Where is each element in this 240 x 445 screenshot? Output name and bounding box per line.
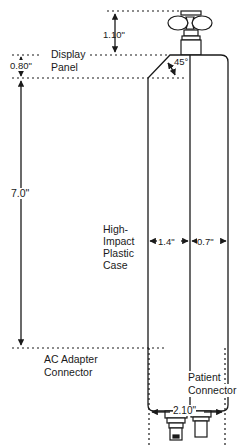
device-body [148, 55, 228, 411]
display-panel-label-line2: Panel [51, 61, 78, 74]
front-width-dimension: 1.4" [158, 236, 175, 247]
bevel-angle-dimension: 45° [174, 56, 188, 67]
ac-adapter-label-line2: Connector [44, 366, 92, 379]
ac-adapter-label-line1: AC Adapter [44, 353, 98, 366]
valve-knob [168, 11, 212, 55]
case-label-line3: Plastic [103, 247, 134, 260]
display-panel-label-line1: Display [51, 48, 85, 61]
valve-height-dimension: 1.10" [103, 29, 125, 40]
side-width-dimension: 0.7" [197, 236, 214, 247]
connector-span-dimension: 2.10" [173, 405, 196, 416]
display-panel-height-dimension: 0.80" [10, 60, 32, 71]
body-height-dimension: 7.0" [11, 188, 29, 199]
case-label-line4: Case [103, 259, 128, 272]
patient-connector-label-line2: Connector [188, 384, 236, 397]
case-label-line1: High- [103, 223, 128, 236]
case-label-line2: Impact [103, 235, 135, 248]
patient-connector-label-line1: Patient [188, 371, 221, 384]
